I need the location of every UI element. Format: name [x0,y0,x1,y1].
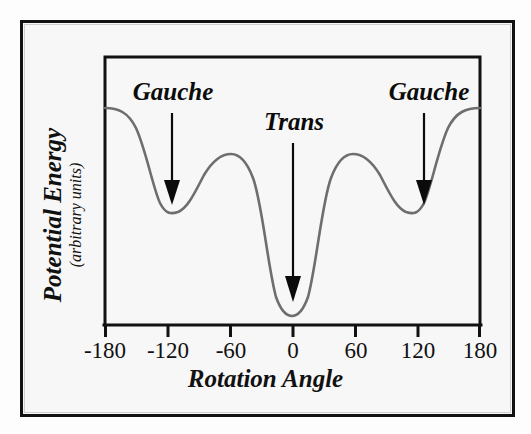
annotation-label-gauche-left: Gauche [133,78,214,106]
y-axis-title-rotated: Potential Energy (arbitrary units) [40,128,86,302]
y-axis-title-wrapper: Potential Energy (arbitrary units) [18,90,108,340]
x-tick-label-60: 60 [345,338,368,364]
annotation-arrow-gauche-left [164,113,180,205]
x-tick-label-180: 180 [463,338,498,364]
x-axis-title: Rotation Angle [0,365,531,393]
x-tick-label-minus-60: -60 [216,338,247,364]
annotation-arrow-trans [285,143,301,302]
annotation-label-trans: Trans [264,108,324,136]
figure-canvas: Gauche Trans Gauche -180 -120 -60 0 60 1… [0,0,531,434]
annotation-label-gauche-right: Gauche [389,78,470,106]
x-tick-label-minus-180: -180 [84,338,126,364]
x-tick-label-zero: 0 [287,338,299,364]
y-axis-subtitle: (arbitrary units) [66,128,86,302]
x-axis-ticks [106,325,480,337]
y-axis-title: Potential Energy [40,128,66,302]
x-tick-label-120: 120 [401,338,436,364]
x-tick-label-minus-120: -120 [147,338,189,364]
